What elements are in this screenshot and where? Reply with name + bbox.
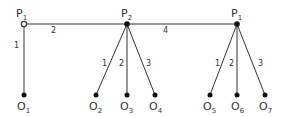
node-label-o3: O3 <box>120 100 133 115</box>
node-label-o1: O1 <box>17 100 30 115</box>
edge-label-p2-o3: 2 <box>119 59 124 68</box>
leaf-node-icon <box>208 93 213 98</box>
edge-label-p1-p2: 2 <box>51 26 56 35</box>
node-label-o2: O2 <box>89 100 102 115</box>
edge-label-p2-p1: 4 <box>163 26 168 35</box>
filled-node-icon <box>124 21 130 27</box>
node-label-o4: O4 <box>149 100 163 115</box>
edge-label-p2-o4: 3 <box>146 59 151 68</box>
node-label-p1-left: P1 <box>16 7 27 22</box>
edge-label-p1-o7: 3 <box>258 59 263 68</box>
edge-label-p2-o2: 1 <box>102 59 107 68</box>
leaf-node-icon <box>94 93 99 98</box>
leaf-node-icon <box>235 93 240 98</box>
edge-label-p1-o6: 2 <box>229 59 234 68</box>
leaf-node-icon <box>22 93 27 98</box>
edge-label-p1-o1: 1 <box>14 41 19 50</box>
hollow-node-icon <box>21 21 26 26</box>
node-label-o7: O7 <box>259 100 272 115</box>
edge-label-p1-o5: 1 <box>215 59 220 68</box>
filled-node-icon <box>234 21 240 27</box>
tree-diagram: 2 4 1 1 2 3 1 2 3 P1 P2 P1 O1 O2 O3 O4 O… <box>0 0 292 117</box>
node-label-o6: O6 <box>231 100 245 115</box>
node-label-p2: P2 <box>121 7 132 22</box>
node-label-p1-right: P1 <box>231 7 242 22</box>
leaf-node-icon <box>125 93 130 98</box>
leaf-node-icon <box>153 93 158 98</box>
leaf-node-icon <box>263 93 268 98</box>
node-label-o5: O5 <box>203 100 216 115</box>
